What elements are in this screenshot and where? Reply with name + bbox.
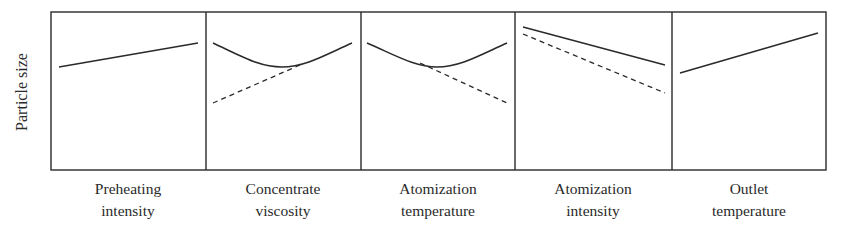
panel-atomization-temperature xyxy=(367,43,507,103)
solid-trend-line xyxy=(523,27,665,65)
x-label-atomization-temperature: Atomization temperature xyxy=(363,178,513,222)
x-label-line: temperature xyxy=(674,200,824,222)
dashed-trend-line xyxy=(420,63,507,103)
panel-preheating-intensity xyxy=(59,43,198,67)
y-axis-label: Particle size xyxy=(13,53,31,131)
dashed-trend-line xyxy=(523,34,665,93)
x-label-outlet-temperature: Outlet temperature xyxy=(674,178,824,222)
x-label-line: intensity xyxy=(53,200,203,222)
x-label-line: Concentrate xyxy=(208,178,358,200)
x-label-line: Atomization xyxy=(363,178,513,200)
x-label-line: intensity xyxy=(518,200,668,222)
x-label-atomization-intensity: Atomization intensity xyxy=(518,178,668,222)
panel-atomization-intensity xyxy=(523,27,665,93)
x-label-line: Outlet xyxy=(674,178,824,200)
x-label-line: viscosity xyxy=(208,200,358,222)
x-label-preheating-intensity: Preheating intensity xyxy=(53,178,203,222)
panel-outlet-temperature xyxy=(680,33,818,73)
dashed-trend-line xyxy=(213,65,300,103)
solid-trend-curve xyxy=(213,43,352,67)
x-label-line: Preheating xyxy=(53,178,203,200)
x-label-concentrate-viscosity: Concentrate viscosity xyxy=(208,178,358,222)
solid-trend-curve xyxy=(367,43,507,67)
plot-frame xyxy=(51,12,826,170)
solid-trend-line xyxy=(59,43,198,67)
solid-trend-line xyxy=(680,33,818,73)
panel-concentrate-viscosity xyxy=(213,43,352,103)
x-label-line: temperature xyxy=(363,200,513,222)
x-label-line: Atomization xyxy=(518,178,668,200)
